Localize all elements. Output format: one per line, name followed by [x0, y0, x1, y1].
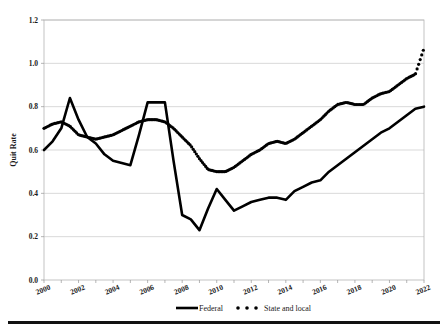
series-line-federal: [44, 98, 424, 230]
y-axis-label: Quit Rate: [9, 133, 18, 167]
y-tick-label: 0.8: [29, 102, 39, 111]
footer-divider: [8, 321, 440, 324]
x-tick-label: 2014: [276, 283, 294, 297]
x-tick-label: 2022: [414, 283, 432, 297]
x-tick-label: 2016: [311, 283, 329, 297]
y-tick-label: 1.2: [29, 16, 39, 25]
y-tick-label: 0.4: [29, 189, 39, 198]
y-tick-label: 0.2: [29, 232, 39, 241]
y-tick-label: 0.6: [29, 146, 39, 155]
x-tick-label: 2002: [69, 283, 87, 297]
x-tick-label: 2010: [207, 283, 225, 297]
x-axis: 2000200220042006200820102012201420162018…: [34, 280, 432, 297]
x-tick-label: 2020: [380, 283, 398, 297]
x-tick-label: 2018: [345, 283, 363, 297]
legend-marker-state-and-local-dot: [236, 306, 240, 310]
legend-label-federal: Federal: [199, 304, 224, 313]
gridlines: [44, 20, 424, 237]
quit-rate-line-chart: 0.00.20.40.60.81.01.2Quit Rate2000200220…: [0, 0, 448, 330]
x-tick-label: 2008: [173, 283, 191, 297]
legend-marker-state-and-local-dot: [245, 306, 249, 310]
chart-figure: 0.00.20.40.60.81.01.2Quit Rate2000200220…: [0, 0, 448, 330]
x-tick-label: 2004: [104, 283, 122, 297]
x-tick-label: 2006: [138, 283, 156, 297]
chart-legend: FederalState and local: [176, 304, 312, 313]
y-tick-label: 1.0: [29, 59, 39, 68]
series-dots-state-and-local: [42, 49, 425, 174]
x-tick-label: 2012: [242, 283, 260, 297]
series-group: [42, 49, 425, 231]
y-tick-label: 0.0: [29, 276, 39, 285]
y-axis: 0.00.20.40.60.81.01.2: [29, 16, 44, 285]
legend-marker-state-and-local-dot: [254, 306, 258, 310]
legend-label-state-and-local: State and local: [264, 304, 312, 313]
